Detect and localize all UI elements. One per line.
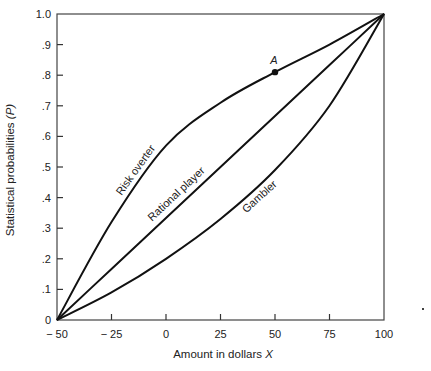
y-tick-label: .6 <box>42 130 51 142</box>
annotations: A <box>269 54 278 75</box>
x-tick-label: 0 <box>163 328 169 340</box>
y-tick-label: .1 <box>42 283 51 295</box>
y-tick-label: .8 <box>42 69 51 81</box>
curve-label-gambler: Gambler <box>240 178 280 215</box>
y-tick-label: 1.0 <box>36 8 51 20</box>
x-axis-variable: X <box>264 348 274 360</box>
x-axis-title: Amount in dollars X <box>173 348 274 360</box>
x-tick-label: 50 <box>269 328 281 340</box>
y-tick-label: .3 <box>42 222 51 234</box>
x-tick-label: − 25 <box>101 328 123 340</box>
y-tick-label: .5 <box>42 161 51 173</box>
x-tick-label: 75 <box>323 328 335 340</box>
curve-label-risk-overter: Risk overter <box>113 142 157 197</box>
curve-rational-player <box>57 14 384 320</box>
y-axis: 0.1.2.3.4.5.6.7.8.91.0 <box>36 8 63 326</box>
point-a-label: A <box>269 54 277 66</box>
y-axis-variable: (P) <box>4 104 16 120</box>
x-axis: − 50− 250255075100 <box>46 314 393 340</box>
point-a-marker <box>272 69 278 75</box>
curves: Risk overterRational playerGambler <box>57 14 384 320</box>
x-tick-label: 100 <box>375 328 393 340</box>
y-tick-label: .4 <box>42 192 51 204</box>
curve-label-rational-player: Rational player <box>145 164 207 223</box>
stray-dot <box>422 308 424 310</box>
y-tick-label: .9 <box>42 39 51 51</box>
y-axis-title: Statistical probabilities (P) <box>4 104 16 236</box>
y-tick-label: .2 <box>42 253 51 265</box>
chart: − 50− 250255075100 0.1.2.3.4.5.6.7.8.91.… <box>0 0 431 371</box>
y-tick-label: 0 <box>45 314 51 326</box>
x-tick-label: − 50 <box>46 328 68 340</box>
y-tick-label: .7 <box>42 100 51 112</box>
x-tick-label: 25 <box>214 328 226 340</box>
